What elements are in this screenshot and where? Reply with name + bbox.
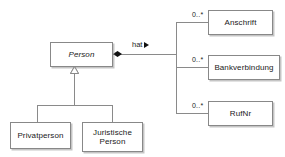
class-name-rufnr: RufNr — [228, 109, 253, 118]
class-name-bankverbindung: Bankverbindung — [212, 63, 275, 72]
branch-line-anschrift — [176, 22, 208, 23]
association-label-hat: hat — [132, 40, 149, 49]
generalization-stem-line — [74, 73, 75, 105]
class-box-privatperson[interactable]: Privatperson — [10, 122, 71, 149]
association-label-text: hat — [132, 40, 142, 49]
class-box-bankverbindung[interactable]: Bankverbindung — [208, 55, 280, 80]
composition-diamond-icon — [113, 51, 122, 57]
class-box-rufnr[interactable]: RufNr — [208, 101, 273, 126]
class-name-privatperson: Privatperson — [15, 131, 65, 140]
branch-line-rufnr — [176, 113, 208, 114]
class-name-anschrift: Anschrift — [222, 18, 258, 27]
generalization-crossbar-line — [37, 105, 113, 106]
multiplicity-bankverbindung: 0..* — [192, 56, 203, 63]
multiplicity-rufnr: 0..* — [192, 102, 203, 109]
multiplicity-anschrift: 0..* — [192, 11, 203, 18]
class-name-juristische-person: Juristische Person — [91, 128, 134, 147]
class-box-person[interactable]: Person — [50, 42, 113, 67]
class-box-anschrift[interactable]: Anschrift — [208, 10, 273, 35]
generalization-drop-juristische-person — [112, 105, 113, 122]
branch-line-bankverbindung — [176, 67, 208, 68]
generalization-drop-privatperson — [37, 105, 38, 122]
association-line-hat — [113, 54, 176, 55]
navigation-arrow-icon — [144, 42, 149, 48]
uml-class-diagram: hat 0..* 0..* 0..* Person Privatperson J… — [0, 0, 285, 157]
class-name-person: Person — [67, 50, 97, 59]
class-box-juristische-person[interactable]: Juristische Person — [82, 122, 143, 152]
